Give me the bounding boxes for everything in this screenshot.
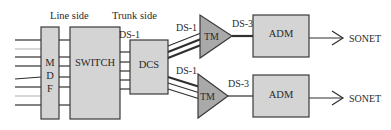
adm-bottom-label: ADM	[269, 89, 294, 100]
dcs-to-tm-top-lines	[168, 33, 201, 58]
switch-to-dcs-lines	[120, 52, 130, 89]
dcs-tm-bottom-link-label: DS-1	[176, 65, 197, 76]
sonet-bottom-output: SONET	[309, 91, 381, 105]
dcs-to-tm-bottom-lines	[168, 77, 200, 99]
trunk-side-label: Trunk side	[112, 10, 157, 21]
adm-top-block: ADM	[253, 15, 309, 57]
adm-bottom-block: ADM	[253, 75, 309, 117]
sonet-top-label: SONET	[349, 33, 381, 44]
mdf-block: M D F	[41, 27, 59, 119]
dcs-label: DCS	[139, 59, 160, 70]
sonet-bottom-label: SONET	[349, 93, 381, 104]
mdf-to-switch-lines	[59, 40, 70, 105]
sonet-top-output: SONET	[309, 31, 381, 45]
switch-label: SWITCH	[75, 57, 116, 68]
dcs-tm-top-link-label: DS-1	[176, 22, 197, 33]
tm-bottom-block: TM	[198, 74, 228, 118]
tm-bottom-label: TM	[200, 91, 215, 102]
mdf-letter-f: F	[47, 83, 53, 94]
dcs-block: DCS	[130, 40, 168, 94]
tm-adm-top-link-label: DS-3	[232, 18, 253, 29]
mdf-letter-m: M	[45, 57, 55, 68]
mdf-letter-d: D	[46, 70, 54, 81]
tm-top-block: TM	[200, 15, 232, 58]
tm-adm-bottom-link-label: DS-3	[228, 78, 249, 89]
adm-top-label: ADM	[269, 28, 294, 39]
switch-block: SWITCH	[70, 27, 120, 119]
tm-top-label: TM	[204, 31, 219, 42]
switch-dcs-link-label: DS-1	[119, 29, 140, 40]
sonet-network-diagram: Line side Trunk side M D F	[0, 0, 391, 130]
line-side-inputs	[15, 40, 41, 105]
line-side-label: Line side	[50, 10, 89, 21]
